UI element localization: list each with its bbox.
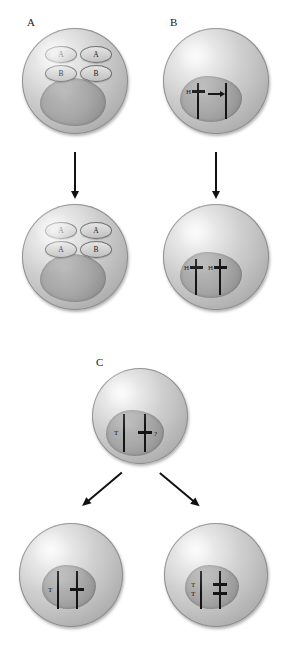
gene-capsule: A — [45, 46, 77, 63]
arrow-diagonal-right-c — [160, 472, 198, 504]
panel-label-a: A — [27, 16, 35, 28]
cell-a-top: A A B B — [22, 28, 128, 134]
gene-capsule: A — [80, 46, 112, 63]
cell-c-top: T ? — [92, 368, 188, 464]
chromatin-bar — [195, 259, 197, 295]
cell-b-top: H — [163, 28, 269, 134]
gene-capsule: A — [45, 241, 77, 258]
mark-crossbar — [70, 588, 84, 591]
chromatin-bar — [219, 571, 221, 609]
mark-crossbar — [192, 90, 205, 93]
panel-label-b: B — [170, 16, 177, 28]
mark-crossbar — [214, 266, 227, 269]
mark-label-h: H — [208, 265, 213, 272]
mark-label-t: T — [114, 430, 118, 437]
mark-label-t: T — [48, 587, 52, 594]
gene-capsule: A — [45, 222, 77, 239]
panel-label-c: C — [96, 356, 103, 368]
arrow-diagonal-left-c — [85, 472, 123, 504]
mark-label-h: H — [184, 265, 189, 272]
nucleus-b-bottom — [180, 252, 242, 298]
cell-a-bottom: A A A B — [22, 204, 128, 310]
chromatin-bar — [219, 259, 221, 295]
chromatin-bar — [57, 571, 59, 609]
arrow-down-a — [74, 152, 76, 192]
mark-crossbar — [213, 583, 227, 586]
mark-label-t: T — [191, 582, 195, 589]
arrow-down-b — [215, 152, 217, 192]
mark-crossbar — [190, 266, 203, 269]
chromatin-bar — [123, 414, 125, 452]
chromatin-bar — [225, 83, 227, 119]
mark-crossbar — [213, 592, 227, 595]
cell-c-bottom-right: T T — [164, 523, 268, 627]
nucleus-b-top — [180, 76, 242, 122]
mark-label-t: T — [191, 591, 195, 598]
mark-label-h: H — [186, 89, 191, 96]
nucleus-a-top — [40, 78, 106, 126]
mark-crossbar — [138, 431, 152, 434]
chromatin-bar — [197, 83, 199, 119]
gene-capsule: B — [80, 241, 112, 258]
cell-c-bottom-left: T — [19, 523, 123, 627]
gene-capsule: B — [45, 65, 77, 82]
gene-capsule: B — [80, 65, 112, 82]
unknown-marker: ? — [154, 430, 157, 438]
nucleus-a-bottom — [40, 254, 106, 302]
cell-b-bottom: H H — [163, 204, 269, 310]
transfer-arrow-icon — [208, 93, 220, 95]
gene-capsule: A — [80, 222, 112, 239]
chromatin-bar — [200, 571, 202, 609]
